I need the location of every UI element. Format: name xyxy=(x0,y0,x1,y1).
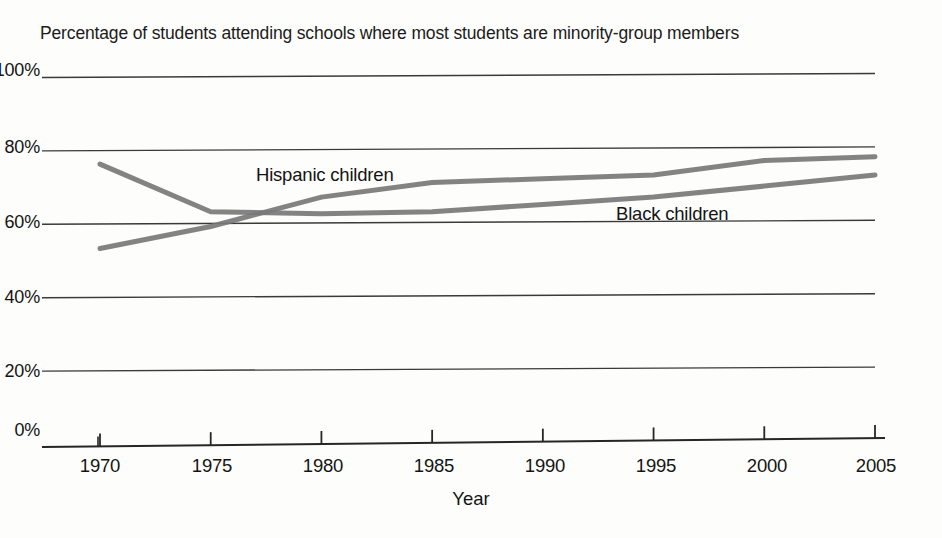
axis-group xyxy=(42,425,885,447)
gridlines-group xyxy=(42,74,875,372)
gridline-60pct xyxy=(42,220,875,224)
gridline-40pct xyxy=(42,294,875,298)
series-lines-group xyxy=(100,157,875,249)
plot-area xyxy=(0,0,942,538)
x-axis-line xyxy=(42,438,885,447)
series-line-hispanic-children xyxy=(100,157,875,249)
gridline-80pct xyxy=(42,147,875,151)
chart-figure: Percentage of students attending schools… xyxy=(0,0,942,538)
gridline-100pct xyxy=(42,74,875,78)
gridline-20pct xyxy=(42,367,875,371)
series-line-black-children xyxy=(100,164,875,214)
